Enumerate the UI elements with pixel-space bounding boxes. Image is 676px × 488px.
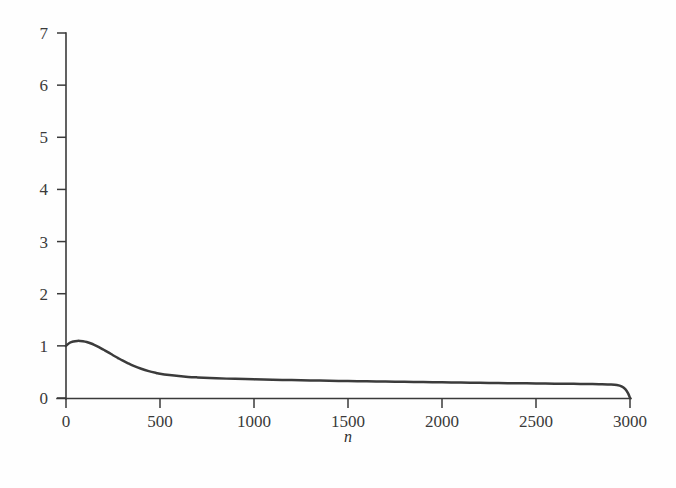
x-axis-tick-marks	[66, 398, 630, 408]
x-axis-tick-labels: 050010001500200025003000	[62, 412, 647, 431]
y-tick-label: 0	[40, 389, 49, 408]
y-tick-label: 3	[40, 233, 49, 252]
y-tick-label: 1	[40, 337, 49, 356]
line-chart-plot: 01234567 050010001500200025003000 n	[0, 0, 676, 488]
y-axis-tick-marks	[57, 33, 66, 398]
y-tick-label: 4	[40, 180, 49, 199]
x-axis-title: n	[344, 428, 352, 445]
y-axis-tick-labels: 01234567	[40, 24, 49, 408]
y-tick-label: 2	[40, 285, 49, 304]
x-tick-label: 500	[147, 412, 173, 431]
x-tick-label: 1000	[237, 412, 271, 431]
x-tick-label: 3000	[613, 412, 647, 431]
y-tick-label: 6	[40, 76, 49, 95]
x-tick-label: 0	[62, 412, 71, 431]
x-tick-label: 2500	[519, 412, 553, 431]
y-tick-label: 5	[40, 128, 49, 147]
y-tick-label: 7	[40, 24, 49, 43]
x-tick-label: 2000	[425, 412, 459, 431]
data-series-curve	[66, 341, 630, 398]
chart-figure: 01234567 050010001500200025003000 n	[0, 0, 676, 488]
